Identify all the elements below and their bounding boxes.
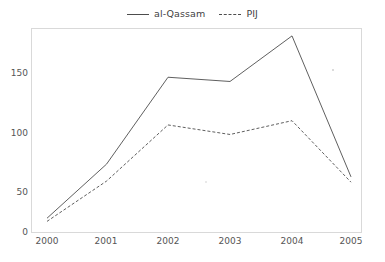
y-tick-150: 150 bbox=[2, 68, 28, 78]
chart-legend: al-Qassam PIJ bbox=[0, 8, 385, 19]
scan-artifact-dot bbox=[205, 181, 207, 183]
x-tick-2005: 2005 bbox=[340, 236, 363, 247]
y-tick-0: 0 bbox=[2, 227, 28, 237]
x-tick-2002: 2002 bbox=[157, 236, 180, 247]
series-line-al-qassam bbox=[47, 36, 351, 218]
line-chart: al-Qassam PIJ 150 100 50 0 2000 2001 200… bbox=[0, 0, 385, 262]
scan-artifact-dot bbox=[332, 69, 334, 71]
legend-line-solid-icon bbox=[127, 10, 149, 18]
series-line-pij bbox=[47, 121, 351, 222]
legend-item-pij[interactable]: PIJ bbox=[219, 8, 258, 19]
x-tick-2003: 2003 bbox=[219, 236, 242, 247]
x-tick-2001: 2001 bbox=[95, 236, 118, 247]
plot-lines bbox=[31, 28, 362, 233]
legend-label-pij: PIJ bbox=[246, 8, 258, 19]
y-tick-50: 50 bbox=[2, 187, 28, 197]
legend-line-dashed-icon bbox=[219, 10, 241, 18]
y-axis-labels: 150 100 50 0 bbox=[0, 0, 28, 262]
y-tick-100: 100 bbox=[2, 128, 28, 138]
x-axis-labels: 2000 2001 2002 2003 2004 2005 bbox=[31, 236, 362, 252]
x-tick-2004: 2004 bbox=[281, 236, 304, 247]
x-tick-2000: 2000 bbox=[36, 236, 59, 247]
legend-label-al-qassam: al-Qassam bbox=[154, 8, 205, 19]
legend-item-al-qassam[interactable]: al-Qassam bbox=[127, 8, 205, 19]
